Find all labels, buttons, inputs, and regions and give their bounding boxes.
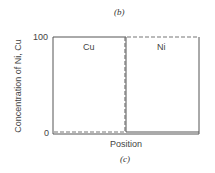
x-axis-label: Position	[110, 139, 142, 149]
y-axis-label: Concentration of Ni, Cu	[13, 39, 23, 133]
concentration-plot	[0, 0, 215, 173]
y-tick-0: 0	[44, 128, 49, 138]
region-label-cu: Cu	[83, 42, 95, 52]
region-label-ni: Ni	[157, 42, 166, 52]
caption-bottom: (c)	[120, 154, 130, 164]
y-tick-100: 100	[33, 32, 48, 42]
